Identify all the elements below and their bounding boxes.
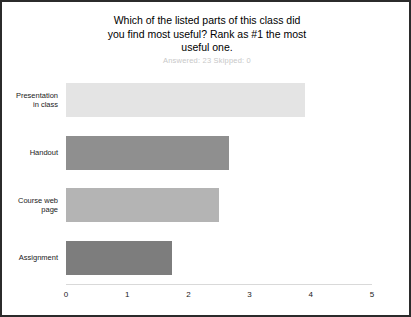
bar[interactable] [66,136,229,170]
x-axis-tick-label: 5 [362,290,382,299]
category-label: Handout [0,148,58,158]
category-label-line: Handout [0,148,58,158]
category-label: Assignment [0,253,58,263]
bar[interactable] [66,188,219,222]
x-axis-tick-label: 3 [240,290,260,299]
bar-row [66,241,372,275]
category-label-line: in class [0,100,58,110]
chart-title-line-3: useful one. [57,41,357,55]
chart-title-line-1: Which of the listed parts of this class … [57,14,357,28]
x-axis-tick-label: 1 [117,290,137,299]
x-axis-line [66,284,372,285]
bar-row [66,136,372,170]
bar[interactable] [66,241,172,275]
x-axis-tick-label: 2 [178,290,198,299]
x-axis-tick-label: 4 [301,290,321,299]
category-label-line: Assignment [0,253,58,263]
chart-title: Which of the listed parts of this class … [57,14,357,55]
category-label: Presentationin class [0,91,58,110]
category-label: Course webpage [0,196,58,215]
bar[interactable] [66,83,305,117]
chart-title-line-2: you find most useful? Rank as #1 the mos… [57,28,357,42]
bar-row [66,188,372,222]
category-label-line: Course web [0,196,58,206]
plot-area [66,74,372,284]
chart-container: Which of the listed parts of this class … [0,0,411,317]
category-label-line: Presentation [0,91,58,101]
chart-inner: Which of the listed parts of this class … [2,2,409,315]
x-axis-tick-label: 0 [56,290,76,299]
bar-row [66,83,372,117]
category-label-line: page [0,205,58,215]
chart-subtitle: Answered: 23 Skipped: 0 [57,56,357,65]
